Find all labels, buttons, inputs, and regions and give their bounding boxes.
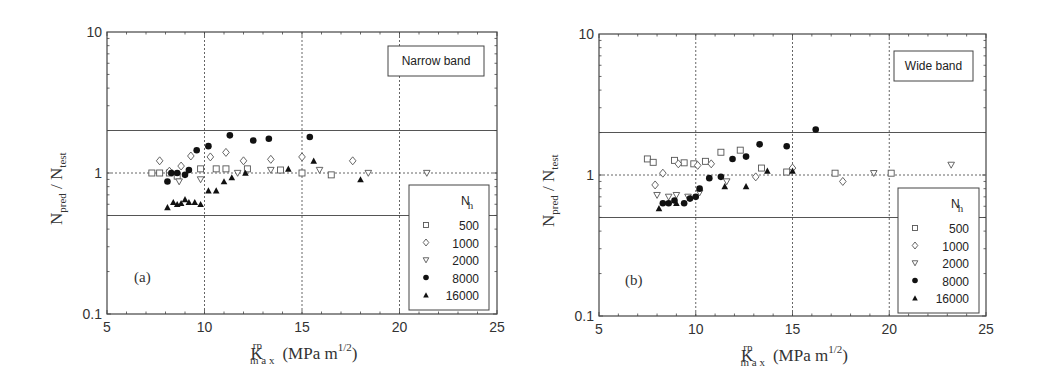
triangle-down-marker [316,167,323,173]
annotation-label: Wide band [905,59,962,73]
diamond-marker [178,162,185,170]
square-marker [759,165,765,171]
circle-marker [706,175,713,182]
triangle-up-marker [229,174,236,180]
triangle-down-marker [948,162,955,168]
triangle-up-marker [285,166,292,172]
triangle-down-marker [176,179,183,185]
triangle-up-marker [310,158,317,164]
circle-marker [186,167,193,174]
y-tick-label: 10 [86,24,102,40]
triangle-up-marker [182,196,189,202]
circle-marker [193,147,200,154]
circle-marker [743,153,750,160]
triangle-up-marker [164,204,171,210]
x-tick-label: 15 [294,319,310,335]
legend-label: 8000 [452,272,479,286]
legend-label: 500 [459,219,479,233]
square-marker [737,147,743,153]
legend-label: 16000 [936,292,970,306]
x-tick-label: 10 [688,321,704,337]
x-tick-label: 15 [785,321,801,337]
triangle-down-marker [365,170,372,176]
triangle-up-marker [213,187,220,193]
x-tick-label: 20 [881,321,897,337]
triangle-up-marker [197,201,204,207]
circle-marker [692,194,699,201]
square-marker [328,172,334,178]
diamond-marker [268,155,275,163]
x-tick-label: 25 [978,321,994,337]
plot-frame: 5101520250.1110Krpm a x(MPa m1/2)Npred /… [47,24,505,366]
diamond-marker [652,181,659,189]
chart-b-svg: 5101520250.1110Krpm a x(MPa m1/2)Npred /… [520,0,1051,388]
circle-marker [174,170,181,177]
plot-frame: 5101520250.1110Krpm a x(MPa m1/2)Npred /… [539,26,994,368]
circle-marker [912,278,918,284]
circle-marker [250,137,257,144]
triangle-up-marker [357,176,364,182]
x-axis-title: Krpm a x(MPa m1/2) [250,339,357,366]
square-marker [784,169,790,175]
x-tick-label: 20 [392,319,408,335]
y-axis-title: Npred / Ntest [47,152,68,225]
circle-marker [812,126,819,133]
diamond-marker [299,153,306,161]
diamond-marker [349,157,356,165]
chart-panel-b: 5101520250.1110Krpm a x(MPa m1/2)Npred /… [520,0,1051,388]
square-marker [718,149,724,155]
diamond-marker [708,160,715,168]
square-marker [213,166,219,172]
y-tick-label: 1 [586,167,594,183]
circle-marker [756,141,763,148]
x-axis-title: Krpm a x(MPa m1/2) [741,341,848,368]
square-marker [198,166,204,172]
legend-label: 16000 [446,289,480,303]
circle-marker [681,200,688,207]
square-marker [888,170,894,176]
square-marker [149,170,155,176]
diamond-marker [188,152,195,160]
square-marker [157,170,163,176]
x-tick-label: 5 [595,321,603,337]
square-marker [278,167,284,173]
circle-marker [696,185,703,192]
triangle-down-marker [268,167,275,173]
legend-label: 1000 [452,237,479,251]
triangle-up-marker [764,168,771,174]
data-points [149,132,430,210]
triangle-up-marker [191,199,198,205]
circle-marker [687,195,694,202]
chart-panel-a: 5101520250.1110Krpm a x(MPa m1/2)Npred /… [0,0,520,388]
legend-label: 8000 [942,275,969,289]
circle-marker [665,200,672,207]
triangle-down-marker [197,177,204,183]
square-marker [223,166,229,172]
y-tick-label: 0.1 [575,308,595,324]
square-marker [650,159,656,165]
square-marker [913,226,918,231]
triangle-up-marker [221,178,228,184]
y-tick-label: 10 [578,26,594,42]
legend-label: 2000 [452,254,479,268]
panel-tag: (b) [625,272,643,289]
panel-tag: (a) [134,269,151,286]
diamond-marker [156,157,163,165]
diamond-marker [660,169,667,177]
x-tick-label: 25 [489,319,505,335]
square-marker [832,170,838,176]
circle-marker [205,143,212,150]
y-tick-label: 0.1 [83,306,103,322]
circle-marker [307,134,314,141]
diamond-marker [752,173,759,181]
circle-marker [266,135,273,142]
circle-marker [168,170,175,177]
circle-marker [423,275,429,281]
chart-a-svg: 5101520250.1110Krpm a x(MPa m1/2)Npred /… [0,0,520,388]
square-marker [644,156,650,162]
circle-marker [718,174,725,181]
circle-marker [660,200,667,207]
legend-label: 1000 [942,240,969,254]
annotation-label: Narrow band [402,54,471,68]
diamond-marker [240,157,247,165]
